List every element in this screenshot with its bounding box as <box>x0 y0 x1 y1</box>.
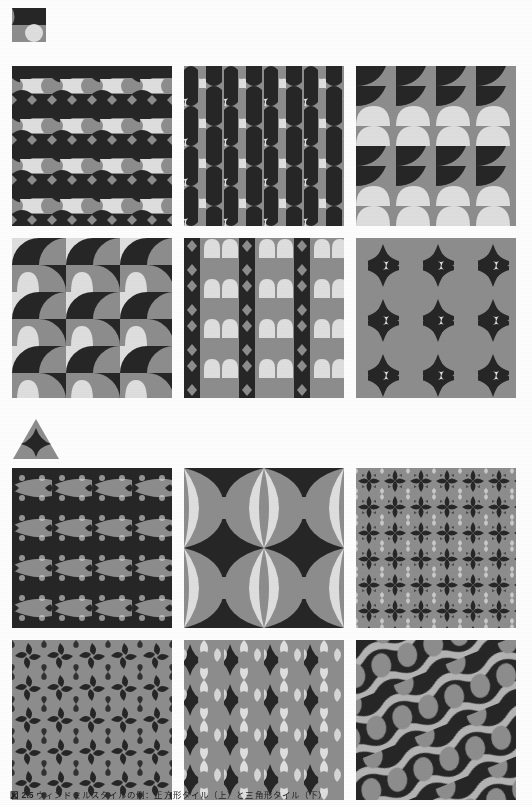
pattern-panel-square-5[interactable] <box>184 238 344 398</box>
pattern-panel-square-1[interactable] <box>12 66 172 226</box>
figure-page: 図 2.5 ウィンドミルスタイルの例：正方形タイル（上）と三角形タイル（下） <box>0 0 532 805</box>
pattern-panel-triangle-6[interactable] <box>356 640 516 800</box>
triangle-pattern-grid <box>12 468 516 800</box>
pattern-panel-square-2[interactable] <box>184 66 344 226</box>
pattern-panel-triangle-1[interactable] <box>12 468 172 628</box>
pattern-panel-triangle-5[interactable] <box>184 640 344 800</box>
pattern-panel-square-6[interactable] <box>356 238 516 398</box>
pattern-panel-square-3[interactable] <box>356 66 516 226</box>
triangle-prototile-icon <box>12 418 60 460</box>
square-pattern-grid <box>12 66 516 398</box>
pattern-panel-square-4[interactable] <box>12 238 172 398</box>
pattern-panel-triangle-4[interactable] <box>12 640 172 800</box>
figure-number: 図 2.5 <box>10 790 34 800</box>
square-prototile-icon <box>12 8 46 42</box>
pattern-panel-triangle-3[interactable] <box>356 468 516 628</box>
figure-caption: 図 2.5 ウィンドミルスタイルの例：正方形タイル（上）と三角形タイル（下） <box>10 790 525 804</box>
pattern-panel-triangle-2[interactable] <box>184 468 344 628</box>
figure-caption-text: ウィンドミルスタイルの例：正方形タイル（上）と三角形タイル（下） <box>36 790 327 800</box>
